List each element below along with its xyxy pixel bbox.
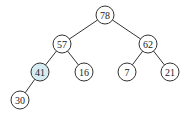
- tree-edge-62-7: [132, 51, 142, 65]
- tree-edge-41-30: [25, 79, 35, 92]
- tree-node-16: 16: [75, 63, 93, 81]
- tree-edge-57-16: [68, 51, 79, 65]
- tree-edge-62-21: [154, 51, 165, 65]
- node-label: 41: [35, 67, 45, 78]
- tree-node-62: 62: [139, 35, 157, 53]
- tree-edge-78-57: [69, 20, 97, 39]
- node-label: 7: [125, 67, 130, 78]
- tree-edge-57-41: [46, 51, 57, 65]
- tree-node-57: 57: [53, 35, 71, 53]
- tree-node-78: 78: [96, 6, 114, 24]
- tree-node-7: 7: [118, 63, 136, 81]
- node-label: 57: [57, 39, 67, 50]
- node-label: 62: [143, 39, 153, 50]
- tree-node-21: 21: [161, 63, 179, 81]
- tree-edges: [25, 20, 164, 93]
- tree-node-41: 41: [31, 63, 49, 81]
- tree-edge-78-62: [112, 20, 140, 39]
- binary-tree-diagram: 785762411672130: [0, 0, 187, 118]
- node-label: 78: [100, 10, 110, 21]
- tree-node-30: 30: [11, 91, 29, 109]
- node-label: 16: [79, 67, 89, 78]
- node-label: 21: [165, 67, 175, 78]
- node-label: 30: [15, 95, 25, 106]
